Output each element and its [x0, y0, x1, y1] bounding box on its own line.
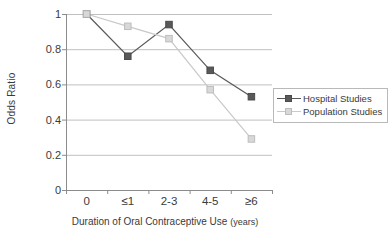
data-point-marker [248, 93, 255, 100]
legend-entry-population-studies: Population Studies [277, 105, 382, 118]
series-markers-population-studies [83, 11, 254, 142]
data-point-marker [83, 11, 90, 18]
chart-legend: Hospital Studies Population Studies [273, 88, 388, 123]
x-axis-tick-label: 4-5 [202, 195, 219, 208]
data-point-marker [166, 21, 173, 28]
x-axis-title: Duration of Oral Contraceptive Use (year… [40, 216, 290, 227]
legend-entry-hospital-studies: Hospital Studies [277, 92, 382, 105]
data-point-marker [125, 23, 132, 30]
legend-marker-hospital-studies [277, 93, 301, 104]
data-point-marker [248, 136, 255, 143]
series-markers-hospital-studies [83, 11, 254, 100]
data-point-marker [166, 35, 173, 42]
x-axis-title-text: Duration of Oral Contraceptive Use [72, 216, 228, 227]
x-axis-tick-labels: 0≤12-34-5≥6 [66, 192, 272, 212]
data-point-marker [207, 86, 214, 93]
x-axis-tick-label: ≤1 [121, 195, 134, 208]
legend-label-hospital-studies: Hospital Studies [303, 93, 372, 104]
x-axis-tick-label: 0 [83, 195, 89, 208]
odds-ratio-line-chart: Odds Ratio 00.20.40.60.81 0≤12-34-5≥6 Du… [0, 0, 390, 244]
legend-marker-population-studies [277, 106, 301, 117]
legend-label-population-studies: Population Studies [303, 106, 382, 117]
x-axis-tick-label: 2-3 [161, 195, 178, 208]
x-axis-tick-label: ≥6 [245, 195, 258, 208]
x-axis-title-unit: (years) [230, 217, 258, 227]
data-point-marker [125, 53, 132, 60]
data-point-marker [207, 67, 214, 74]
